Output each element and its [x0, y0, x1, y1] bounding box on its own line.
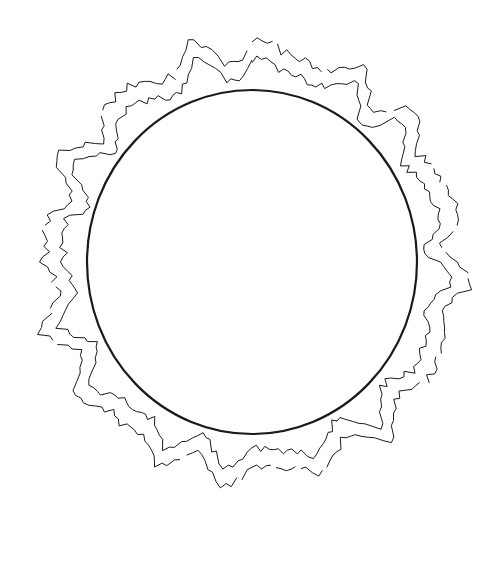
corona-stroke	[301, 467, 323, 476]
corona-stroke	[446, 252, 469, 273]
corona-stroke	[327, 65, 386, 113]
corona-stroke	[40, 230, 58, 282]
corona-stroke	[427, 357, 438, 383]
corona-stroke	[441, 278, 472, 353]
corona-stroke	[252, 38, 273, 43]
corona-stroke	[103, 74, 176, 111]
drawing-canvas	[0, 0, 496, 561]
corona-stroke	[276, 467, 295, 471]
corona-stroke	[278, 44, 322, 72]
sun-disc	[87, 90, 417, 434]
corona-stroke	[434, 168, 441, 182]
corona-stroke	[327, 383, 420, 468]
corona-stroke	[447, 185, 459, 225]
corona-flames	[38, 38, 472, 488]
sun-illustration	[0, 0, 496, 561]
corona-stroke	[38, 313, 54, 340]
corona-stroke	[50, 287, 61, 309]
corona-stroke	[394, 106, 432, 164]
corona-stroke	[177, 40, 248, 70]
corona-stroke	[187, 450, 237, 488]
corona-stroke	[242, 465, 271, 480]
corona-stroke	[440, 231, 454, 247]
corona-stroke	[56, 56, 452, 469]
